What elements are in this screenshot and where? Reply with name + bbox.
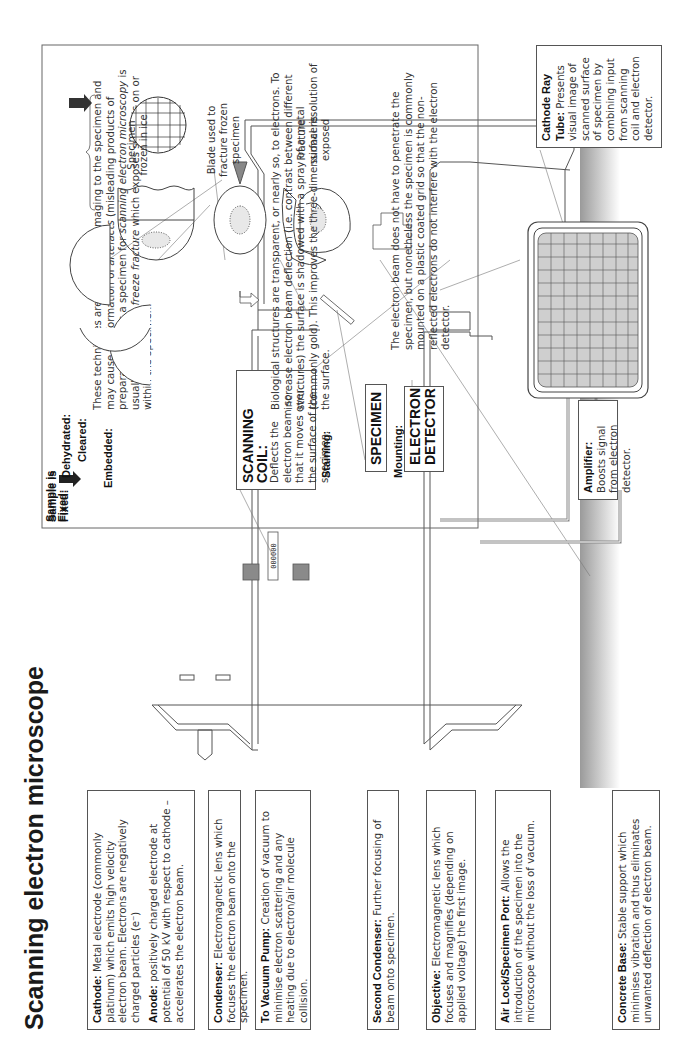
step-cleared-label: Cleared:: [76, 418, 88, 462]
mounting-text: The electron beam does not have to penet…: [390, 60, 453, 350]
staining-text: Biological structures are transparent, o…: [270, 60, 333, 410]
step-dehydrated-label: Dehydrated:: [60, 414, 72, 478]
step-staining-label: Staining:: [320, 431, 332, 478]
prep-panel-layer: Sample is Fixed: Dehydrated: Cleared: Em…: [0, 0, 699, 1050]
step-embedded-label: Embedded:: [102, 428, 114, 488]
step-mounting-label: Mounting:: [392, 425, 404, 478]
